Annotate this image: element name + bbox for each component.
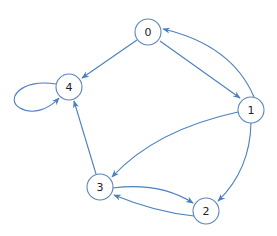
edge-1-to-2: [218, 123, 251, 201]
node-label: 4: [66, 81, 73, 94]
node-label: 1: [248, 104, 255, 117]
edge-4-to-4-self-loop: [14, 83, 59, 111]
node-label: 2: [203, 205, 210, 218]
edge-3-to-4: [74, 101, 96, 174]
edge-3-to-2: [113, 187, 193, 203]
edge-0-to-4: [82, 40, 137, 78]
graph-canvas: 0 1 2 3 4: [0, 0, 277, 236]
edge-2-to-3: [114, 195, 194, 216]
node-4[interactable]: 4: [56, 74, 82, 100]
node-3[interactable]: 3: [87, 174, 113, 200]
edge-1-to-3: [112, 112, 238, 177]
node-label: 0: [145, 26, 152, 39]
edge-0-to-1: [160, 41, 240, 98]
node-0[interactable]: 0: [135, 19, 161, 45]
node-1[interactable]: 1: [238, 97, 264, 123]
node-2[interactable]: 2: [193, 198, 219, 224]
edge-1-to-0: [163, 29, 254, 97]
node-label: 3: [97, 181, 104, 194]
